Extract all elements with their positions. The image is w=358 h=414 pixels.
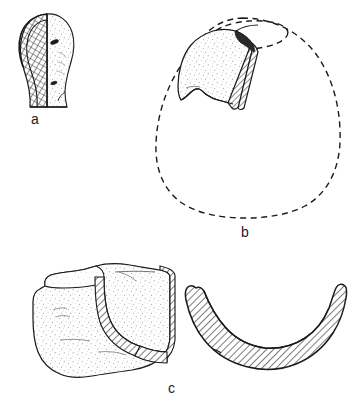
figure-a: [19, 14, 74, 107]
figure-a-outer-surface: [47, 14, 74, 107]
artifact-illustration-plate: [0, 0, 358, 414]
figure-b-caption: b: [241, 225, 249, 239]
figure-c: [33, 264, 347, 378]
figure-a-caption: a: [31, 112, 39, 126]
figure-c-caption: c: [168, 381, 175, 395]
figure-b: [156, 18, 340, 218]
figure-b-mouth-visible-arc: [236, 25, 258, 31]
figure-c-cross-section: [185, 284, 346, 369]
